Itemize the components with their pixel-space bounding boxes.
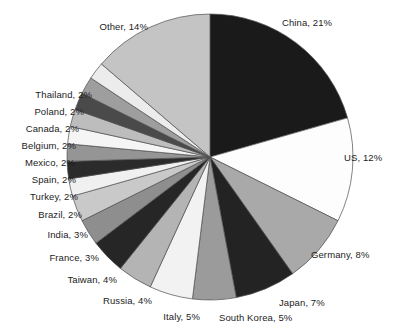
- pie-label-india: India, 3%: [47, 229, 88, 240]
- pie-label-russia: Russia, 4%: [103, 295, 152, 306]
- pie-label-germany: Germany, 8%: [311, 249, 369, 260]
- pie-label-china: China, 21%: [282, 17, 332, 28]
- pie-chart-figure: China, 21%US, 12%Germany, 8%Japan, 7%Sou…: [0, 0, 408, 331]
- pie-label-belgium: Belgium, 2%: [22, 140, 76, 151]
- pie-label-spain: Spain, 2%: [32, 174, 76, 185]
- pie-label-us: US, 12%: [344, 152, 382, 163]
- pie-label-canada: Canada, 2%: [26, 123, 79, 134]
- pie-label-mexico: Mexico, 2%: [25, 157, 75, 168]
- pie-label-brazil: Brazil, 2%: [38, 209, 82, 220]
- pie-label-turkey: Turkey, 2%: [30, 191, 78, 202]
- pie-label-japan: Japan, 7%: [279, 297, 325, 308]
- pie-label-other: Other, 14%: [99, 21, 148, 32]
- pie-label-taiwan: Taiwan, 4%: [67, 274, 117, 285]
- pie-label-france: France, 3%: [49, 252, 99, 263]
- pie-label-thailand: Thailand, 2%: [35, 89, 92, 100]
- pie-label-south-korea: South Korea, 5%: [219, 312, 292, 323]
- pie-label-italy: Italy, 5%: [163, 311, 200, 322]
- pie-label-poland: Poland, 2%: [34, 106, 84, 117]
